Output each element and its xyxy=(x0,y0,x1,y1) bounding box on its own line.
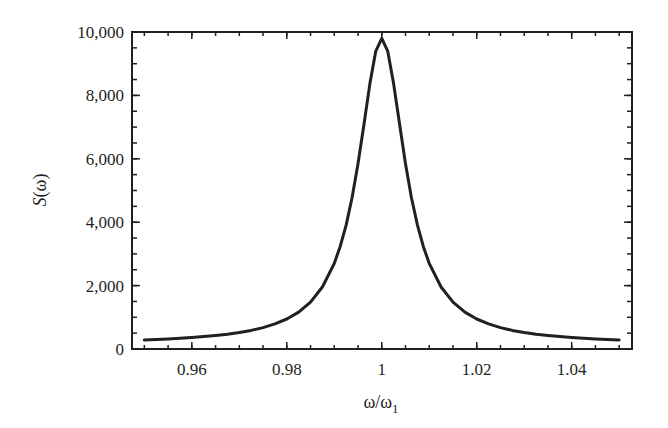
y-tick-label: 6,000 xyxy=(86,150,124,169)
x-tick-label: 1.04 xyxy=(557,360,587,379)
y-tick-labels: 02,0004,0006,0008,00010,000 xyxy=(77,23,124,359)
x-tick-label: 0.98 xyxy=(272,360,302,379)
major-ticks xyxy=(132,32,632,349)
y-tick-label: 0 xyxy=(116,340,125,359)
x-tick-labels: 0.960.9811.021.04 xyxy=(177,360,587,379)
chart: 0.960.9811.021.04 02,0004,0006,0008,0001… xyxy=(0,0,668,428)
y-tick-label: 2,000 xyxy=(86,277,124,296)
minor-ticks xyxy=(132,32,632,349)
y-tick-label: 4,000 xyxy=(86,213,124,232)
y-axis-title-italic: S xyxy=(30,197,50,206)
x-axis-title-main: ω/ω xyxy=(363,392,392,412)
x-tick-label: 1.02 xyxy=(462,360,492,379)
y-axis-title-rest: (ω) xyxy=(30,174,51,198)
x-axis-title-subscript: 1 xyxy=(392,401,399,416)
plot-frame xyxy=(132,32,632,349)
y-axis-title: S(ω) xyxy=(30,174,51,207)
x-tick-label: 0.96 xyxy=(177,360,207,379)
y-tick-label: 8,000 xyxy=(86,86,124,105)
y-tick-label: 10,000 xyxy=(77,23,124,42)
spectrum-curve xyxy=(144,38,619,340)
x-tick-label: 1 xyxy=(378,360,387,379)
x-axis-title: ω/ω1 xyxy=(363,392,398,416)
